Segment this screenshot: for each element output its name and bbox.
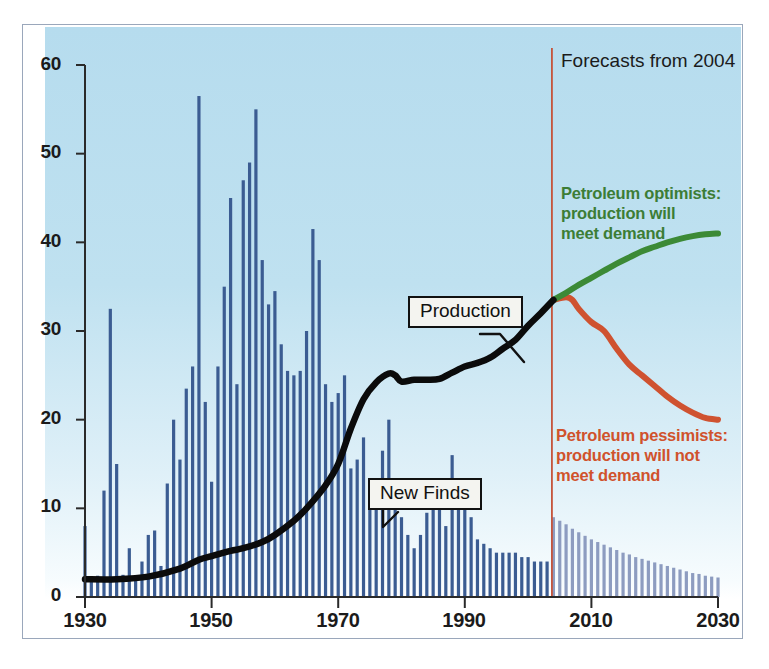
ytick-label-40: 40 [21,230,61,252]
ytick-label-50: 50 [21,141,61,163]
ytick-label-10: 10 [21,495,61,517]
xtick-label-1970: 1970 [303,609,373,632]
xtick-label-2030: 2030 [683,609,753,632]
pessimists-line-1: Petroleum pessimists: [556,425,728,445]
pessimists-line-3: meet demand [556,465,728,485]
ytick-label-60: 60 [21,53,61,75]
ytick-label-20: 20 [21,407,61,429]
figure-root: 60 50 40 30 20 10 0 1930 1950 1970 1990 … [0,0,769,669]
pessimists-annotation: Petroleum pessimists: production will no… [556,425,728,485]
plot-panel-background [45,27,741,599]
new-finds-callout: New Finds [368,478,482,510]
production-callout: Production [408,296,523,328]
xtick-label-2010: 2010 [556,609,626,632]
forecast-divider-label: Forecasts from 2004 [561,50,735,72]
xtick-label-1990: 1990 [429,609,499,632]
optimists-line-1: Petroleum optimists: [561,183,721,203]
xtick-label-1930: 1930 [50,609,120,632]
pessimists-line-2: production will not [556,445,728,465]
ytick-label-0: 0 [21,584,61,606]
optimists-line-3: meet demand [561,223,721,243]
optimists-annotation: Petroleum optimists: production will mee… [561,183,721,243]
xtick-label-1950: 1950 [176,609,246,632]
optimists-line-2: production will [561,203,721,223]
ytick-label-30: 30 [21,318,61,340]
